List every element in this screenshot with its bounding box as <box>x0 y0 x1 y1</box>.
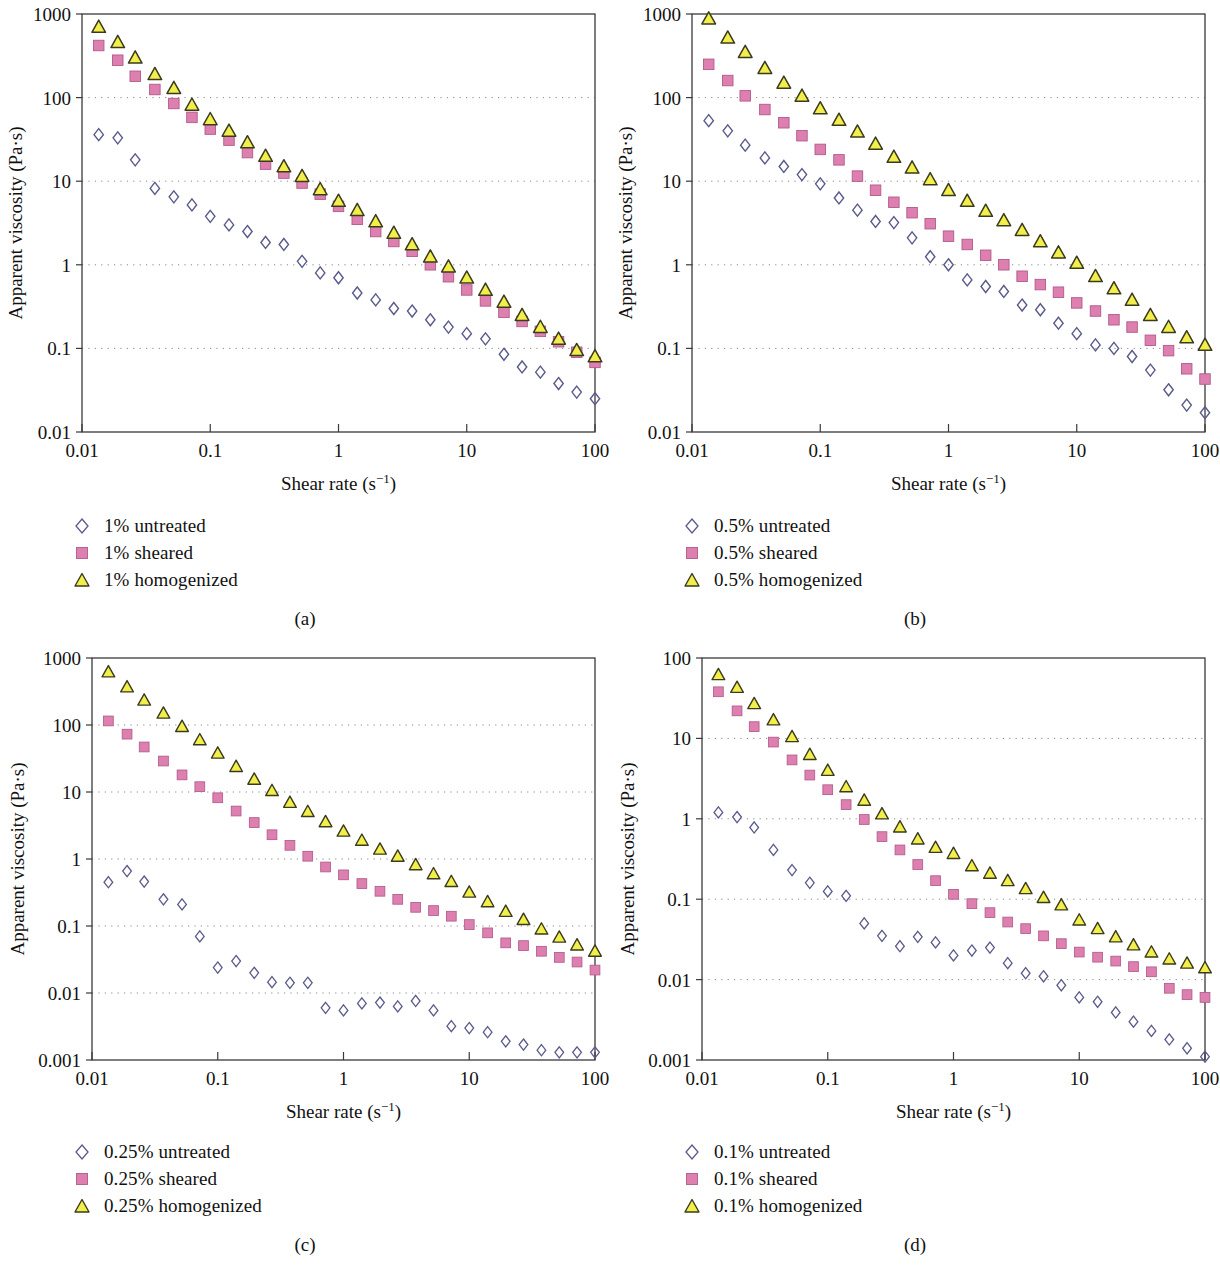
sheared-marker <box>321 862 331 872</box>
untreated-marker <box>769 844 778 855</box>
untreated-marker <box>94 129 103 141</box>
legend-item-label: 0.1% homogenized <box>714 1195 862 1217</box>
sheared-marker <box>139 742 149 752</box>
untreated-marker <box>805 877 814 888</box>
legend-item-untreated: 0.1% untreated <box>682 1138 1102 1165</box>
untreated-marker <box>353 287 362 299</box>
y-axis-tick-label: 0.1 <box>57 916 81 937</box>
untreated-marker <box>303 977 312 988</box>
y-axis-tick-label: 0.1 <box>657 338 681 359</box>
homogenized-marker <box>588 350 602 362</box>
untreated-marker <box>393 1001 402 1012</box>
sheared-marker <box>205 124 216 135</box>
sheared-marker <box>760 104 771 115</box>
panel-a: 0.010.111010010000.010.1110100Shear rate… <box>0 0 610 636</box>
legend-item-label: 0.5% untreated <box>714 515 830 537</box>
sheared-marker <box>1164 983 1174 993</box>
y-axis-tick-label: 1 <box>682 809 692 830</box>
legend-item-untreated: 1% untreated <box>72 512 492 539</box>
scatter-plot-d: 0.0010.010.11101000.010.1110100Shear rat… <box>610 636 1220 1136</box>
homogenized-marker <box>1180 331 1194 343</box>
legend-item-sheared: 1% sheared <box>72 539 492 566</box>
homogenized-marker <box>1162 320 1176 332</box>
untreated-marker <box>1127 351 1136 363</box>
homogenized-marker <box>966 860 979 871</box>
untreated-marker <box>968 945 977 956</box>
untreated-marker <box>232 955 241 966</box>
y-axis-tick-label: 100 <box>43 88 72 109</box>
homogenized-marker <box>813 102 827 114</box>
untreated-marker <box>1091 339 1100 351</box>
legend-d: 0.1% untreated 0.1% sheared 0.1% homogen… <box>682 1138 1102 1219</box>
x-axis-label: Shear rate (s−1) <box>286 1099 401 1124</box>
sheared-marker <box>375 886 385 896</box>
untreated-marker <box>878 930 887 941</box>
untreated-marker <box>1093 996 1102 1007</box>
untreated-marker <box>483 1027 492 1038</box>
y-axis-tick-label: 10 <box>672 728 691 749</box>
homogenized-marker <box>497 295 511 307</box>
data-series <box>703 59 1210 384</box>
y-axis-tick-label: 1 <box>672 255 682 276</box>
sheared-marker <box>1109 315 1120 326</box>
y-axis-label: Apparent viscosity (Pa·s) <box>617 762 639 955</box>
homogenized-marker <box>374 843 387 854</box>
sheared-marker <box>150 84 161 95</box>
untreated-marker <box>1054 317 1063 329</box>
untreated-marker <box>741 139 750 151</box>
homogenized-legend-icon <box>682 1196 702 1216</box>
y-axis-tick-label: 100 <box>653 88 682 109</box>
legend-item-label: 1% sheared <box>104 542 193 564</box>
untreated-marker <box>1021 968 1030 979</box>
data-series <box>714 807 1209 1062</box>
untreated-marker <box>426 314 435 326</box>
homogenized-marker <box>92 20 106 32</box>
homogenized-marker <box>479 283 493 295</box>
sheared-marker <box>859 815 869 825</box>
untreated-marker <box>986 942 995 953</box>
homogenized-marker <box>923 173 937 185</box>
untreated-marker <box>536 366 545 378</box>
homogenized-marker <box>1109 931 1122 942</box>
homogenized-marker <box>481 895 494 906</box>
sheared-marker <box>339 870 349 880</box>
homogenized-marker <box>997 214 1011 226</box>
untreated-marker-swatch <box>682 516 708 536</box>
homogenized-marker <box>332 194 346 206</box>
untreated-marker <box>389 303 398 315</box>
untreated-marker <box>178 899 187 910</box>
x-axis-tick-label: 0.01 <box>65 440 98 461</box>
sheared-marker <box>1072 298 1083 309</box>
homogenized-marker <box>979 204 993 216</box>
y-axis-label: Apparent viscosity (Pa·s) <box>5 126 27 319</box>
sheared-legend-icon <box>682 543 702 563</box>
untreated-marker <box>104 877 113 888</box>
y-axis-tick-label: 1 <box>72 849 82 870</box>
sheared-marker <box>889 197 900 208</box>
sheared-marker <box>1200 993 1210 1003</box>
sheared-marker-swatch <box>682 543 708 563</box>
untreated-marker <box>1109 342 1118 354</box>
sheared-marker <box>130 71 141 82</box>
y-axis-tick-label: 100 <box>663 648 692 669</box>
homogenized-marker <box>894 821 907 832</box>
sheared-marker <box>187 112 198 123</box>
x-axis-tick-label: 100 <box>581 440 610 461</box>
untreated-marker <box>931 937 940 948</box>
untreated-marker <box>723 125 732 137</box>
sheared-marker <box>572 957 582 967</box>
sheared-marker <box>805 770 815 780</box>
homogenized-marker <box>424 250 438 262</box>
homogenized-marker <box>858 794 871 805</box>
homogenized-marker <box>259 149 273 161</box>
untreated-marker <box>371 294 380 306</box>
homogenized-marker <box>1127 939 1140 950</box>
sheared-marker <box>303 851 313 861</box>
untreated-marker <box>462 328 471 340</box>
untreated-marker <box>750 822 759 833</box>
untreated-marker <box>123 866 132 877</box>
sheared-marker <box>249 818 259 828</box>
untreated-marker <box>447 1021 456 1032</box>
untreated-marker <box>907 232 916 244</box>
x-axis-tick-label: 1 <box>339 1068 349 1089</box>
